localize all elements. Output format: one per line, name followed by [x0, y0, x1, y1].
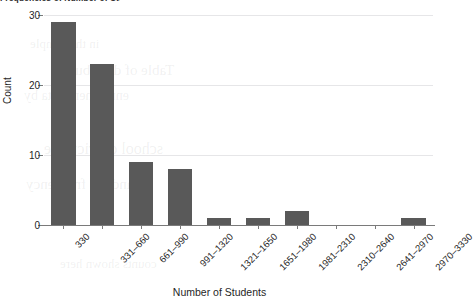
- x-tick-mark: [297, 225, 298, 229]
- x-tick-label: 1321–1650: [238, 231, 279, 272]
- x-tick-mark: [102, 225, 103, 229]
- plot-area: [44, 15, 433, 225]
- y-axis-title: Count: [2, 77, 13, 104]
- x-tick-mark: [180, 225, 181, 229]
- bar: [207, 218, 231, 225]
- x-tick-mark: [63, 225, 64, 229]
- x-axis-line: [40, 225, 435, 226]
- x-tick-label: 2310–2640: [355, 231, 396, 272]
- y-tick-label: 10: [6, 150, 40, 161]
- caption-text: Frequencies of Number of Students: [0, 0, 120, 4]
- x-tick-mark: [258, 225, 259, 229]
- x-tick-mark: [141, 225, 142, 229]
- x-tick-label: 2970–3330: [432, 231, 473, 272]
- x-tick-label: 1651–1980: [277, 231, 318, 272]
- bar: [129, 162, 153, 225]
- bar: [51, 22, 75, 225]
- x-axis-title: Number of Students: [0, 286, 439, 298]
- x-tick-label: 991–1320: [198, 231, 236, 269]
- x-tick-mark: [219, 225, 220, 229]
- bar: [285, 211, 309, 225]
- y-axis: 0 10 20 30: [0, 0, 40, 304]
- x-tick-label: 661–990: [157, 231, 191, 265]
- bars-layer: [44, 15, 433, 225]
- x-tick-mark: [414, 225, 415, 229]
- bar: [90, 64, 114, 225]
- y-tick-label: 0: [6, 220, 40, 231]
- x-tick-label: 331–660: [118, 231, 152, 265]
- x-tick-mark: [336, 225, 337, 229]
- clipped-top-caption: Frequencies of Number of Students: [0, 0, 120, 4]
- y-tick-label: 30: [6, 10, 40, 21]
- x-tick-label: 2641–2970: [394, 231, 435, 272]
- x-tick-label: 1981–2310: [316, 231, 357, 272]
- x-tick-mark: [375, 225, 376, 229]
- x-tick-label: 330: [73, 231, 92, 250]
- bar: [168, 169, 192, 225]
- bar: [401, 218, 425, 225]
- bar: [246, 218, 270, 225]
